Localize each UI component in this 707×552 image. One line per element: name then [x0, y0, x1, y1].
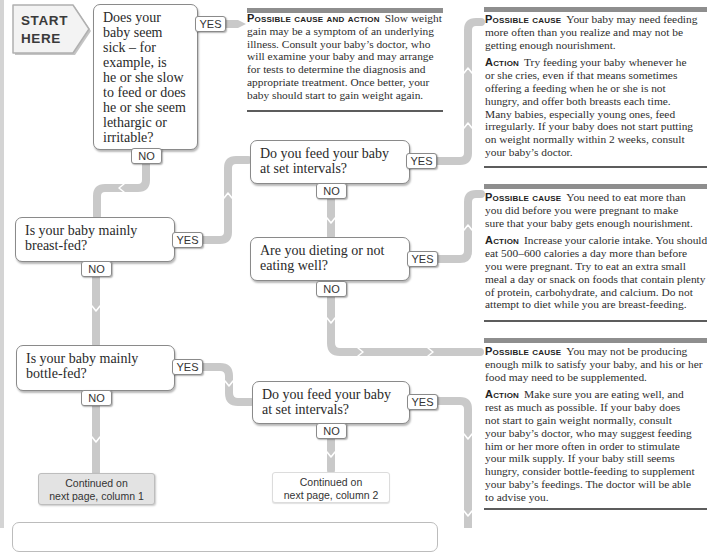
start-label-line2: HERE: [21, 30, 68, 48]
connector-dieting-no-to-milk-panel: [331, 297, 480, 352]
question-text: Do you feed your baby at set intervals?: [260, 146, 409, 176]
yes-tag-bottle-fed[interactable]: YES: [172, 359, 203, 375]
continued-column-1-link[interactable]: Continued on next page, column 1: [38, 473, 155, 505]
continued-column-2-link[interactable]: Continued on next page, column 2: [272, 472, 390, 503]
question-text: Are you dieting or not eating well?: [260, 243, 409, 273]
continued-text: Continued on next page, column 1: [39, 477, 154, 502]
no-tag-dieting[interactable]: NO: [316, 281, 347, 297]
no-tag-breast-fed[interactable]: NO: [81, 261, 112, 277]
no-tag-feed-intervals-breast[interactable]: NO: [316, 183, 347, 199]
yes-tag-breast-fed[interactable]: YES: [172, 232, 203, 248]
question-baby-sick: Does your baby seem sick – for example, …: [93, 4, 198, 150]
yes-tag-baby-sick[interactable]: YES: [195, 16, 226, 32]
no-tag-bottle-fed[interactable]: NO: [81, 390, 112, 406]
no-tag-feed-intervals-bottle[interactable]: NO: [316, 423, 347, 439]
connector-dieting-yes-to-calorie-panel: [436, 194, 481, 259]
question-feed-set-intervals-bottle: Do you feed your baby at set intervals?: [252, 381, 410, 424]
connector-bottlefed-yes-to-intervals: [201, 367, 251, 402]
question-text: Is your baby mainly breast-fed?: [25, 223, 174, 253]
yes-tag-feed-intervals-breast[interactable]: YES: [406, 153, 437, 169]
no-tag-baby-sick[interactable]: NO: [131, 148, 162, 164]
question-dieting: Are you dieting or not eating well?: [250, 237, 410, 281]
yes-tag-dieting[interactable]: YES: [407, 251, 438, 267]
question-text: Is your baby mainly bottle-fed?: [26, 351, 174, 381]
connector-bottle-intervals-yes-down: [437, 401, 468, 528]
question-bottle-fed: Is your baby mainly bottle-fed?: [16, 345, 175, 391]
start-label-line1: START: [21, 12, 68, 30]
connector-intervals-yes-to-feeding-panel: [436, 22, 481, 161]
bottom-note-box: [12, 522, 438, 552]
question-text: Do you feed your baby at set intervals?: [262, 387, 409, 417]
continued-text: Continued on next page, column 2: [273, 476, 389, 501]
question-text: Does your baby seem sick – for example, …: [103, 10, 197, 145]
start-here-marker: START HERE: [11, 3, 95, 59]
question-feed-set-intervals-breast: Do you feed your baby at set intervals?: [250, 140, 410, 184]
yes-tag-feed-intervals-bottle[interactable]: YES: [407, 394, 438, 410]
question-breast-fed: Is your baby mainly breast-fed?: [15, 217, 175, 262]
connector-breastfed-yes-to-intervals: [200, 160, 248, 240]
arrow-sick-yes-to-panel: [226, 20, 246, 28]
